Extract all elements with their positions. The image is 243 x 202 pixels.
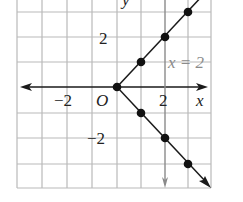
x-axis-label: x [195,91,204,110]
data-points [113,8,193,169]
point-0-0 [113,83,122,92]
y-tick-label-2: 2 [99,29,108,48]
point-1-1 [137,58,146,67]
y-tick-label-neg2: −2 [87,129,105,148]
arrow-down-right-icon [199,176,211,188]
graph-canvas: y 2 x = 2 −2 O 2 x −2 [0,0,243,202]
y-axis-label: y [120,0,130,9]
origin-label: O [96,91,108,110]
x-tick-label-2: 2 [159,91,168,110]
vertical-line-label: x = 2 [167,53,205,72]
point-3-neg3 [184,160,193,169]
point-2-neg2 [161,134,170,143]
x-tick-label-neg2: −2 [54,91,72,110]
grid [17,0,211,188]
point-1-neg1 [137,109,146,118]
point-3-3 [184,8,193,17]
point-2-2 [161,33,170,42]
